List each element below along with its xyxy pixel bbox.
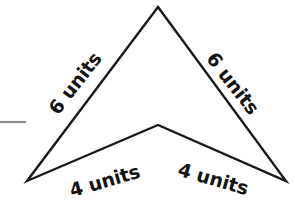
geometry-figure: 6 units 6 units 4 units 4 units xyxy=(0,0,295,207)
